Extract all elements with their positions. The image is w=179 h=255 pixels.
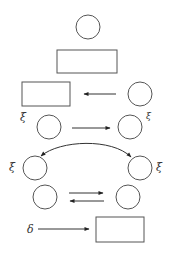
row3-rect-node — [22, 82, 70, 106]
row5-left-circle-node — [23, 156, 47, 180]
row3-circle-node — [128, 82, 152, 106]
row5-left-xi-label: ξ — [9, 161, 16, 174]
diagram-canvas: ξ ξ ξ ξ δ — [0, 0, 179, 255]
top-rect-node — [57, 50, 117, 73]
top-circle-node — [76, 15, 100, 39]
bottom-rect-node — [96, 217, 144, 242]
row4-right-circle-node — [118, 115, 142, 139]
row6-left-circle-node — [33, 185, 57, 209]
row5-right-circle-node — [128, 156, 152, 180]
row5-curved-double-arrow — [41, 143, 131, 157]
row4-left-circle-node — [37, 115, 61, 139]
row6-right-circle-node — [116, 185, 140, 209]
row4-right-xi-label: ξ — [146, 111, 152, 121]
row5-right-xi-label: ξ — [156, 161, 163, 174]
delta-label: δ — [27, 223, 34, 236]
row4-left-xi-label: ξ — [20, 111, 27, 124]
